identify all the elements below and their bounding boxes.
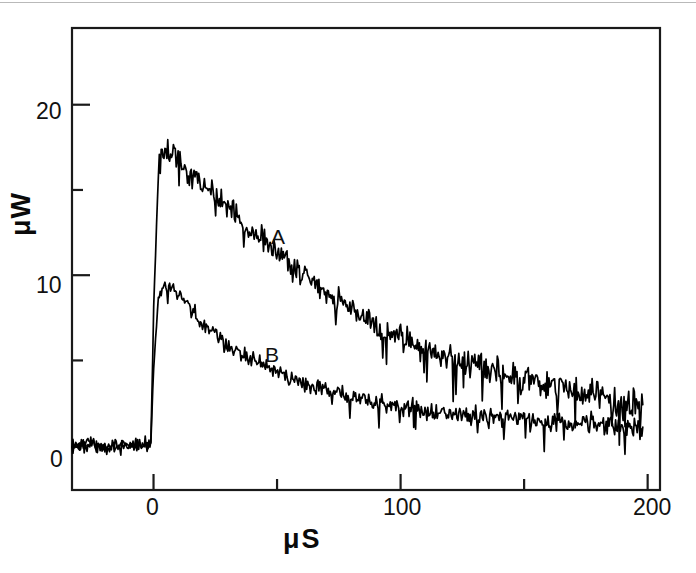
x-tick-label-0: 0 <box>146 494 159 521</box>
y-axis-title: μW <box>6 192 37 236</box>
y-axis-ticks <box>72 105 90 446</box>
x-axis-title: μS <box>283 524 322 555</box>
plot-canvas <box>0 0 696 573</box>
y-tick-label-10: 10 <box>36 272 62 299</box>
plot-frame <box>72 28 660 490</box>
x-axis-ticks <box>154 474 648 490</box>
figure-chart-decay: μW μS 20 10 0 0 100 200 A B <box>0 0 696 573</box>
series-label-a: A <box>271 225 285 249</box>
x-tick-label-200: 200 <box>633 494 671 521</box>
y-tick-label-20: 20 <box>36 98 62 125</box>
x-tick-label-100: 100 <box>383 494 421 521</box>
y-tick-label-0: 0 <box>50 446 63 473</box>
series-traces <box>72 140 643 455</box>
series-label-b: B <box>265 343 279 367</box>
